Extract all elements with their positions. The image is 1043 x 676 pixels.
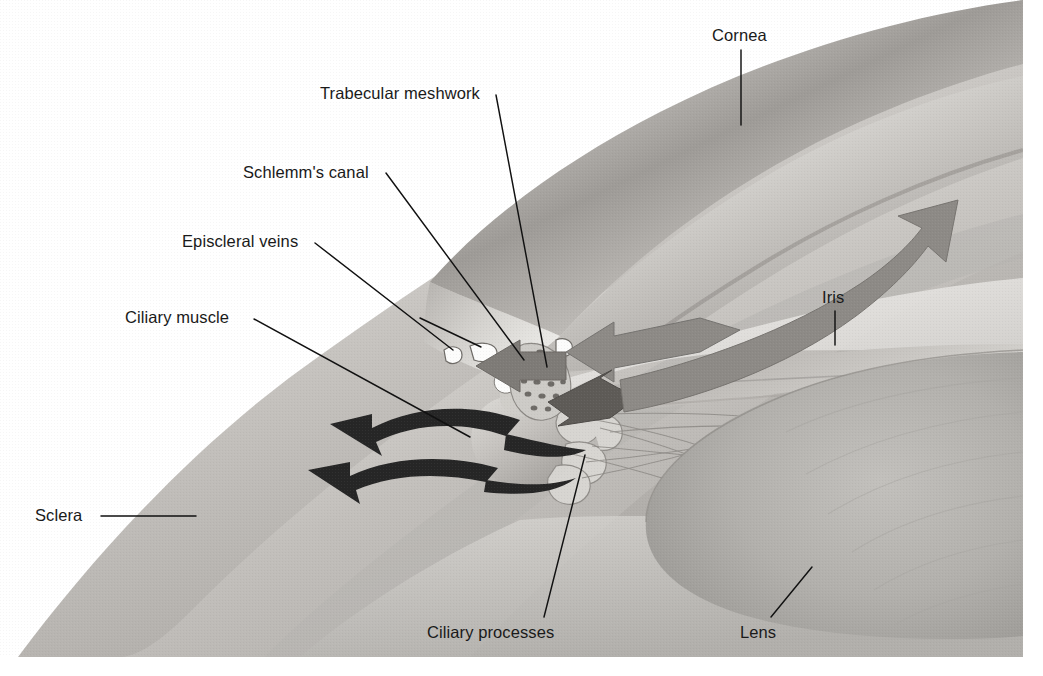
label-text-lens: Lens	[740, 623, 776, 641]
label-text-trabecular-meshwork: Trabecular meshwork	[320, 84, 481, 102]
label-text-episcleral-veins: Episcleral veins	[182, 232, 298, 250]
eye-diagram-svg: Trabecular meshwork Schlemm's canal Epis…	[0, 0, 1043, 676]
label-text-ciliary-processes: Ciliary processes	[427, 623, 554, 641]
label-text-sclera: Sclera	[35, 506, 83, 524]
paper-texture	[0, 0, 1023, 657]
label-text-cornea: Cornea	[712, 26, 767, 44]
illustration-body	[0, 0, 1023, 657]
label-text-iris: Iris	[822, 288, 844, 306]
label-text-schlemms-canal: Schlemm's canal	[243, 163, 369, 181]
eye-anatomy-figure: Trabecular meshwork Schlemm's canal Epis…	[0, 0, 1043, 676]
label-text-ciliary-muscle: Ciliary muscle	[125, 308, 229, 326]
